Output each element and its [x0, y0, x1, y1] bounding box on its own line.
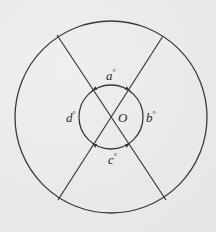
angle-label-d: d°: [66, 110, 76, 125]
center-label-o: O: [118, 110, 128, 125]
angle-label-a: a°: [106, 68, 116, 83]
diagram-canvas: a° b° c° d° O: [0, 0, 216, 232]
geometry-figure: a° b° c° d° O: [0, 0, 216, 232]
angle-label-b: b°: [146, 110, 156, 125]
angle-label-c: c°: [108, 152, 117, 167]
